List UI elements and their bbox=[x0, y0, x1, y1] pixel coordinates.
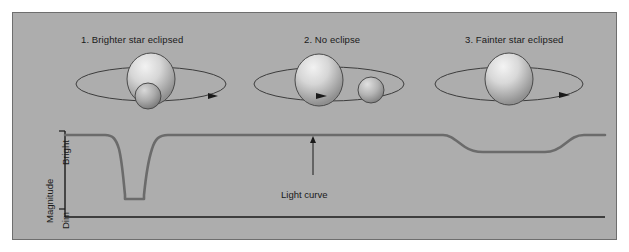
light-curve-annotation-arrow-icon bbox=[310, 136, 316, 143]
scene-title-1: 1. Brighter star eclipsed bbox=[81, 34, 183, 45]
light-curve-annotation-label: Light curve bbox=[281, 189, 327, 200]
scene-title-3: 3. Fainter star eclipsed bbox=[465, 34, 564, 45]
scene-title-2: 2. No eclipse bbox=[304, 34, 360, 45]
orbit-scene-brighter-star-eclipsed bbox=[58, 51, 258, 113]
large-star bbox=[485, 53, 533, 105]
eclipsing-binary-figure: 1. Brighter star eclipsed 2. No eclipse … bbox=[12, 12, 617, 240]
y-axis-title: Magnitude bbox=[44, 179, 55, 223]
light-curve-line bbox=[65, 135, 605, 199]
light-curve-plot bbox=[13, 109, 618, 241]
y-tick-label-bright: Bright bbox=[60, 140, 71, 165]
small-star bbox=[358, 77, 384, 103]
small-star bbox=[135, 83, 161, 109]
orbit-direction-arrow-icon bbox=[559, 92, 570, 98]
orbit-scene-fainter-star-eclipsed bbox=[431, 51, 629, 113]
large-star bbox=[295, 54, 343, 106]
y-tick-label-dim: Dim bbox=[60, 212, 71, 229]
orbit-scene-no-eclipse bbox=[243, 51, 443, 113]
